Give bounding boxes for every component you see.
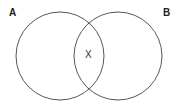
intersection-label: X xyxy=(85,50,92,60)
set-a-label: A xyxy=(9,8,16,18)
set-b-label: B xyxy=(163,8,170,18)
